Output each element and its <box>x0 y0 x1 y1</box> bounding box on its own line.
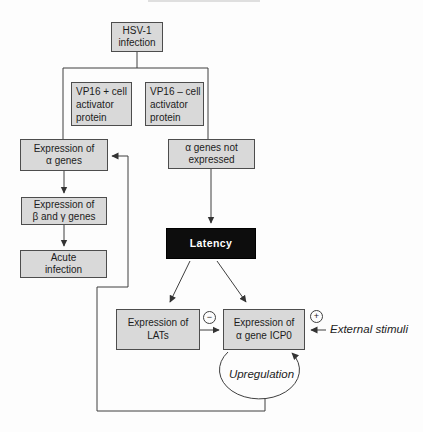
node-alpha-genes-not-expressed: α genes not expressed <box>168 139 255 169</box>
arrow-latency-to-lats <box>170 261 190 302</box>
minus-sign-icon: − <box>203 311 216 324</box>
arrow-latency-to-icp0 <box>217 261 246 302</box>
node-hsv1-infection: HSV-1 infection <box>111 22 163 52</box>
external-stimuli-label: External stimuli <box>330 322 408 336</box>
node-latency: Latency <box>166 228 256 259</box>
node-alpha-genes-expressed: Expression of α genes <box>20 139 108 171</box>
node-expression-icp0: Expression of α gene ICP0 <box>223 309 305 350</box>
upregulation-label: Upregulation <box>219 367 304 381</box>
node-beta-gamma-genes: Expression of β and γ genes <box>21 197 107 225</box>
node-acute-infection: Acute infection <box>20 250 107 278</box>
node-vp16-minus: VP16 – cell activator protein <box>145 82 204 126</box>
hsv1-latency-diagram: HSV-1 infection VP16 + cell activator pr… <box>0 0 423 432</box>
node-expression-lats: Expression of LATs <box>116 309 200 350</box>
node-vp16-plus: VP16 + cell activator protein <box>71 82 132 126</box>
plus-sign-icon: + <box>310 310 323 323</box>
